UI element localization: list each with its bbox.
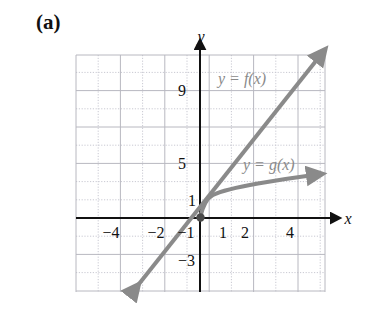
x-axis-label: x [343, 210, 351, 227]
panel-label: (a) [36, 12, 61, 33]
y-tick-5: 5 [178, 155, 186, 172]
x-tick-2: 2 [241, 224, 249, 241]
f-curve-label: y = f(x) [216, 70, 266, 88]
x-tick-neg4: −4 [102, 224, 119, 241]
x-tick-neg1: −1 [177, 224, 194, 241]
x-tick-neg2: −2 [147, 224, 164, 241]
math-figure: (a) [0, 0, 391, 310]
y-tick-neg3: −3 [178, 252, 195, 269]
x-tick-1: 1 [219, 224, 227, 241]
y-tick-1: 1 [188, 192, 196, 209]
g-curve-label: y = g(x) [241, 156, 295, 174]
y-axis-label: y [195, 28, 205, 46]
x-tick-4: 4 [286, 224, 294, 241]
y-tick-9: 9 [178, 82, 186, 99]
graph-canvas: 9 5 1 −3 −4 −2 −1 1 2 4 x y y = f(x) y =… [0, 0, 391, 310]
origin-intersection-dot [196, 213, 204, 221]
